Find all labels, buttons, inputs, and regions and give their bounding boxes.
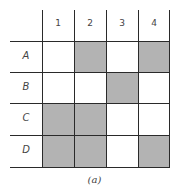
grid-line-horizontal <box>10 41 170 42</box>
grid-line-horizontal <box>10 135 170 136</box>
figure-caption: (a) <box>0 174 177 185</box>
cell-b-1 <box>42 72 74 103</box>
cell-b-2 <box>74 72 106 103</box>
grid-line-vertical <box>42 10 43 168</box>
row-label-d: D <box>10 144 42 155</box>
row-label-c: C <box>10 112 42 123</box>
column-label-4: 4 <box>138 18 170 28</box>
row-label-a: A <box>10 50 42 61</box>
cell-a-1 <box>42 41 74 72</box>
column-label-2: 2 <box>74 18 106 28</box>
cell-b-3 <box>106 72 138 103</box>
grid-line-horizontal <box>10 103 170 104</box>
cell-c-3 <box>106 103 138 135</box>
incidence-grid: 1 2 3 4 A B C D (a) <box>0 0 177 190</box>
grid-line-vertical <box>169 10 170 168</box>
cell-c-1 <box>42 103 74 135</box>
cell-c-4 <box>138 103 169 135</box>
cell-d-2 <box>74 135 106 167</box>
column-label-1: 1 <box>42 18 74 28</box>
column-label-3: 3 <box>106 18 138 28</box>
cell-a-3 <box>106 41 138 72</box>
cell-d-1 <box>42 135 74 167</box>
grid-line-horizontal <box>10 167 170 168</box>
cell-b-4 <box>138 72 169 103</box>
grid-line-vertical <box>138 10 139 168</box>
grid-line-horizontal <box>10 72 170 73</box>
row-label-b: B <box>10 81 42 92</box>
cell-a-2 <box>74 41 106 72</box>
cell-d-4 <box>138 135 169 167</box>
grid-line-vertical <box>74 10 75 168</box>
cell-a-4 <box>138 41 169 72</box>
cell-c-2 <box>74 103 106 135</box>
cell-d-3 <box>106 135 138 167</box>
grid-line-vertical <box>106 10 107 168</box>
